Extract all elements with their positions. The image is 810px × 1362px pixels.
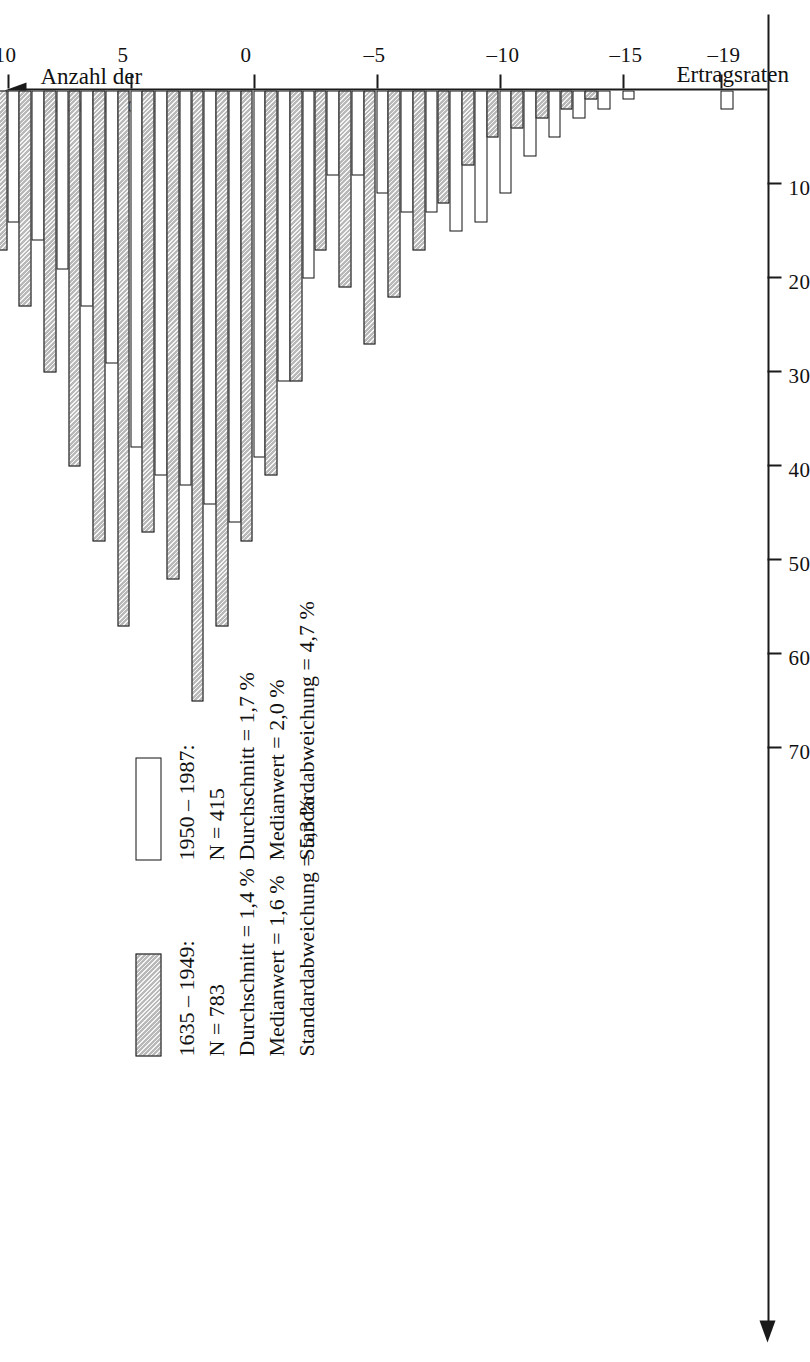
bar-new--15 xyxy=(622,90,635,99)
bar-old-1 xyxy=(215,90,228,626)
bar-new-6 xyxy=(105,90,118,363)
bar-new--6 xyxy=(400,90,413,212)
bar-new-3 xyxy=(179,90,192,485)
bar-new--2 xyxy=(302,90,315,278)
bar-new--9 xyxy=(474,90,487,222)
bar-new--7 xyxy=(425,90,438,212)
value-tick xyxy=(767,559,781,561)
bar-new-2 xyxy=(203,90,216,504)
bar-new--8 xyxy=(449,90,462,231)
legend-entry-line: Medianwert = 2,0 % xyxy=(263,679,289,860)
bar-old-4 xyxy=(141,90,154,532)
category-tick-label: 5 xyxy=(117,42,128,67)
bar-old-7 xyxy=(68,90,81,466)
category-axis-arrow xyxy=(759,1320,775,1342)
value-tick xyxy=(767,653,781,655)
bar-new--10 xyxy=(499,90,512,193)
bar-old--10 xyxy=(486,90,499,137)
bar-new-1 xyxy=(228,90,241,522)
bar-new--12 xyxy=(548,90,561,137)
bar-old--9 xyxy=(461,90,474,165)
bar-new-10 xyxy=(7,90,20,222)
category-tick-label: –5 xyxy=(363,42,385,67)
legend-entry-line: Durchschnitt = 1,4 % xyxy=(233,868,259,1056)
legend-entry-line: Medianwert = 1,6 % xyxy=(263,875,289,1056)
value-tick-label: 30 xyxy=(788,363,810,388)
category-tick xyxy=(130,74,132,88)
category-tick xyxy=(720,74,722,88)
value-tick xyxy=(767,465,781,467)
bar-new--1 xyxy=(277,90,290,381)
bar-old-6 xyxy=(92,90,105,541)
bar-new-4 xyxy=(154,90,167,475)
legend-entry-line: N = 415 xyxy=(203,788,229,860)
value-tick xyxy=(767,371,781,373)
value-tick-label: 50 xyxy=(788,551,810,576)
value-tick-label: 60 xyxy=(788,645,810,670)
value-tick-label: 20 xyxy=(788,269,810,294)
bar-new--13 xyxy=(572,90,585,118)
bar-new--14 xyxy=(597,90,610,109)
category-tick-label: –15 xyxy=(609,42,642,67)
bar-old--12 xyxy=(535,90,548,118)
category-tick xyxy=(376,74,378,88)
bar-old-8 xyxy=(43,90,56,372)
bar-new-5 xyxy=(130,90,143,447)
category-tick xyxy=(499,74,501,88)
bar-new-9 xyxy=(31,90,44,240)
bar-old--4 xyxy=(338,90,351,287)
legend-entry-line: Standardabweichung = 4,7 % xyxy=(293,601,319,860)
bar-old--6 xyxy=(387,90,400,297)
bar-new--11 xyxy=(523,90,536,156)
bar-new--5 xyxy=(376,90,389,193)
bar-old--1 xyxy=(264,90,277,475)
bar-old-3 xyxy=(166,90,179,579)
value-tick-label: 10 xyxy=(788,175,810,200)
value-tick-label: 40 xyxy=(788,457,810,482)
value-tick xyxy=(767,183,781,185)
legend-entry-line: Durchschnitt = 1,7 % xyxy=(233,672,259,860)
bar-old--3 xyxy=(314,90,327,250)
category-tick xyxy=(7,74,9,88)
bar-old-0 xyxy=(240,90,253,541)
category-tick-label: 0 xyxy=(240,42,251,67)
bar-old-2 xyxy=(191,90,204,701)
legend-entry-title: 1950 – 1987: xyxy=(173,744,199,860)
category-axis-line xyxy=(767,14,769,1324)
bar-new--4 xyxy=(351,90,364,175)
legend-entry-line: N = 783 xyxy=(203,984,229,1056)
bar-new--3 xyxy=(326,90,339,175)
legend: 1635 – 1949:N = 783Durchschnitt = 1,4 %M… xyxy=(133,668,323,1060)
bar-old--7 xyxy=(412,90,425,250)
bar-old-9 xyxy=(18,90,31,306)
bar-new-8 xyxy=(56,90,69,269)
category-tick-label: –10 xyxy=(486,42,519,67)
value-tick xyxy=(767,277,781,279)
category-tick xyxy=(622,74,624,88)
bar-new-7 xyxy=(80,90,93,306)
bar-old--5 xyxy=(363,90,376,344)
white-swatch xyxy=(135,757,161,860)
category-tick xyxy=(253,74,255,88)
hatched-gray-swatch xyxy=(135,953,161,1056)
category-tick-label: 10 xyxy=(0,42,16,67)
bar-old-10 xyxy=(0,90,7,250)
value-tick xyxy=(767,747,781,749)
bar-new--19 xyxy=(720,90,733,109)
category-tick-label: –19 xyxy=(707,42,740,67)
bar-old--14 xyxy=(584,90,597,99)
bar-old--13 xyxy=(560,90,573,109)
value-tick-label: 70 xyxy=(788,739,810,764)
bar-old--2 xyxy=(289,90,302,381)
bar-old--8 xyxy=(437,90,450,203)
bar-old--11 xyxy=(510,90,523,128)
legend-entry-title: 1635 – 1949: xyxy=(173,940,199,1056)
bar-old-5 xyxy=(117,90,130,626)
bar-new-0 xyxy=(253,90,266,457)
